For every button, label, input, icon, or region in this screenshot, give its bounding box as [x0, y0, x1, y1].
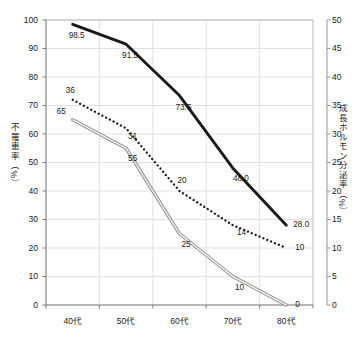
data-point-label: 73.5	[176, 103, 192, 112]
y-axis-right-tick-label: 30	[332, 129, 354, 139]
data-point-label: 91.5	[122, 51, 138, 60]
y-axis-right-tick-label: 25	[332, 157, 354, 167]
y-axis-left-tick-label: 30	[16, 214, 38, 224]
y-axis-left-tick-label: 80	[16, 72, 38, 82]
y-axis-right-tick-label: 0	[332, 300, 354, 310]
data-point-label: 48.0	[233, 174, 249, 183]
x-axis-tick-label: 50代	[103, 314, 149, 326]
data-point-label: 98.5	[69, 31, 85, 40]
series-lines	[73, 24, 287, 305]
y-axis-right-tick-label: 45	[332, 43, 354, 53]
data-point-label: 55	[128, 154, 137, 163]
data-point-label: 20	[178, 176, 187, 185]
y-axis-left-tick-label: 40	[16, 186, 38, 196]
y-axis-right-tick-label: 20	[332, 186, 354, 196]
x-axis-tick-label: 40代	[50, 314, 96, 326]
data-point-label: 31	[128, 132, 137, 141]
y-axis-right-tick-label: 50	[332, 15, 354, 25]
y-axis-right-tick-label: 5	[332, 271, 354, 281]
x-axis-tick-label: 60代	[157, 314, 203, 326]
data-point-label: 14	[237, 228, 246, 237]
y-axis-right-tick-label: 35	[332, 100, 354, 110]
data-point-label: 28.0	[293, 220, 309, 229]
tick-marks	[43, 20, 331, 309]
y-axis-left-tick-label: 60	[16, 129, 38, 139]
y-axis-right-tick-label: 40	[332, 72, 354, 82]
plot-svg	[0, 0, 357, 342]
y-axis-left-tick-label: 0	[16, 300, 38, 310]
data-point-label: 25	[182, 240, 191, 249]
data-point-label: 10	[295, 243, 304, 252]
y-axis-left-tick-label: 50	[16, 157, 38, 167]
chart-container: 不罹患率（%） 成長ホルモン分泌率（%） 0102030405060708090…	[0, 0, 357, 342]
y-axis-right-tick-label: 10	[332, 243, 354, 253]
y-axis-right-tick-label: 15	[332, 214, 354, 224]
x-axis-tick-label: 80代	[263, 314, 309, 326]
data-point-label: 36	[66, 86, 75, 95]
data-point-label: 65	[57, 107, 66, 116]
gridlines	[46, 20, 313, 305]
y-axis-left-tick-label: 100	[16, 15, 38, 25]
data-point-label: 0	[295, 300, 300, 309]
y-axis-left-tick-label: 10	[16, 271, 38, 281]
y-axis-left-tick-label: 70	[16, 100, 38, 110]
y-axis-left-tick-label: 20	[16, 243, 38, 253]
y-axis-left-tick-label: 90	[16, 43, 38, 53]
data-point-label: 10	[235, 283, 244, 292]
x-axis-tick-label: 70代	[210, 314, 256, 326]
